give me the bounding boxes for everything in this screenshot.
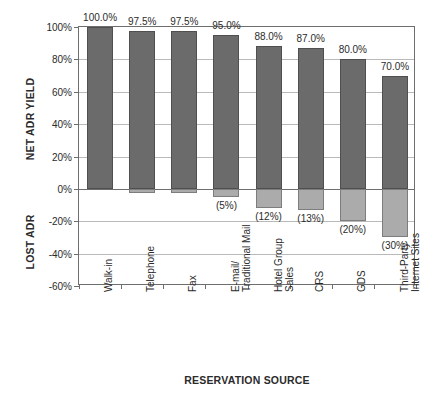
bar-slot: 97.5% [171,27,197,284]
y-axis-tick-mark [74,221,79,222]
x-axis-category-label: Telephone [145,246,156,292]
x-axis-category-label: CRS [314,271,325,292]
x-axis-tick-mark [374,284,375,289]
y-axis-title-upper: NET ADR YIELD [24,59,36,179]
bar-lost-adr[interactable] [298,189,324,210]
bar-slot: 80.0%(20%) [340,27,366,284]
bar-net-adr-yield[interactable] [213,35,239,189]
y-axis-tick-label: 0% [58,183,72,194]
bar-value-label-positive: 97.5% [170,16,198,27]
bar-value-label-negative: (20%) [339,224,366,235]
y-axis-tick-label: 80% [52,54,72,65]
y-axis-tick-mark [74,157,79,158]
bar-net-adr-yield[interactable] [129,31,155,189]
bar-net-adr-yield[interactable] [256,46,282,188]
y-axis-tick-label: -40% [49,248,72,259]
y-axis-tick-mark [74,254,79,255]
bar-value-label-positive: 70.0% [381,61,409,72]
y-axis-title-lower: LOST ADR [24,196,36,288]
bar-value-label-positive: 97.5% [128,16,156,27]
x-axis-category-label: Fax [187,275,198,292]
bar-lost-adr[interactable] [340,189,366,221]
x-axis-category-label: Walk-in [103,259,114,292]
x-axis-category-label: E-mail/ Traditional Mail [230,225,252,292]
y-axis-tick-mark [74,59,79,60]
y-axis-tick-mark [74,27,79,28]
x-axis-tick-mark [332,284,333,289]
bar-net-adr-yield[interactable] [382,76,408,189]
y-axis-tick-mark [74,189,79,190]
bar-lost-adr[interactable] [382,189,408,238]
x-axis-category-label: Hotel Group Sales [273,238,295,292]
y-axis-tick-label: 40% [52,119,72,130]
bar-slot: 87.0%(13%) [298,27,324,284]
bar-lost-adr[interactable] [256,189,282,208]
x-axis-tick-mark [205,284,206,289]
x-axis-tick-mark [79,284,80,289]
y-axis-tick-mark [74,92,79,93]
x-axis-category-label: Third-Party Internet Sites [399,233,421,292]
y-axis-tick-label: 60% [52,86,72,97]
bar-value-label-negative: (13%) [297,213,324,224]
y-axis-tick-label: 20% [52,151,72,162]
bar-net-adr-yield[interactable] [171,31,197,189]
bar-value-label-positive: 95.0% [212,20,240,31]
x-axis-title: RESERVATION SOURCE [78,374,416,386]
y-axis-tick-label: -60% [49,281,72,292]
y-axis-tick-label: 100% [46,22,72,33]
bar-value-label-positive: 87.0% [297,33,325,44]
bar-lost-adr[interactable] [213,189,239,197]
bar-net-adr-yield[interactable] [298,48,324,189]
bar-net-adr-yield[interactable] [87,27,113,189]
bar-slot: 100.0% [87,27,113,284]
bar-lost-adr[interactable] [171,189,197,193]
bar-value-label-positive: 100.0% [83,12,117,23]
x-axis-category-label: GDS [356,270,367,292]
bar-lost-adr[interactable] [129,189,155,193]
bar-value-label-positive: 80.0% [339,44,367,55]
bar-value-label-negative: (12%) [255,211,282,222]
bar-value-label-negative: (5%) [216,200,237,211]
bar-net-adr-yield[interactable] [340,59,366,189]
y-axis-tick-mark [74,124,79,125]
x-axis-tick-mark [163,284,164,289]
chart-container: NET ADR YIELD LOST ADR 100%80%60%40%20%0… [0,0,437,403]
bar-value-label-positive: 88.0% [254,31,282,42]
y-axis-tick-label: -20% [49,216,72,227]
x-axis-tick-mark [121,284,122,289]
